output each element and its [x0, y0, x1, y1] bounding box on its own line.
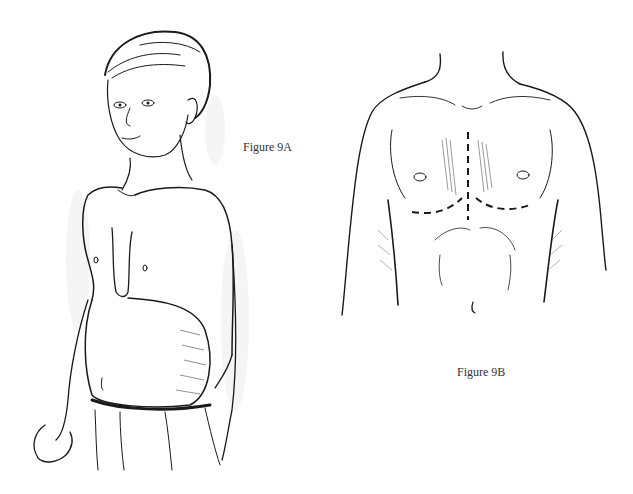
figure-9a-illustration	[0, 0, 320, 494]
stipple-shading	[66, 95, 249, 410]
left-inframammary-incision	[412, 198, 462, 213]
navel	[472, 302, 475, 313]
flank-hatching	[378, 230, 562, 270]
belly-hatching	[176, 330, 206, 394]
right-inframammary-incision	[476, 198, 530, 209]
figure-9b-caption: Figure 9B	[457, 365, 505, 380]
boy-torso-drawing	[0, 0, 320, 494]
chest-frontal-drawing	[330, 40, 633, 350]
figure-9b-illustration	[330, 40, 633, 350]
figure-9a-caption: Figure 9A	[243, 140, 292, 155]
